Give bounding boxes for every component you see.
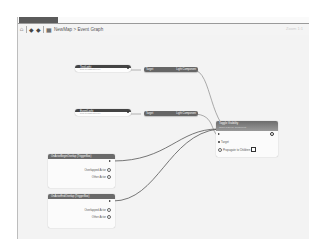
- forward-arrow-icon[interactable]: ◆: [35, 25, 42, 33]
- output-pin[interactable]: [127, 111, 129, 113]
- home-icon[interactable]: ⌂: [18, 25, 25, 33]
- exec-out-pin[interactable]: [270, 132, 274, 136]
- event-title: OnActorBeginOverlap (TriggerBox): [48, 154, 115, 159]
- other-actor-pin[interactable]: [107, 175, 111, 179]
- pin-label: Other Actor: [92, 175, 106, 179]
- overlapped-actor-pin[interactable]: [107, 168, 111, 172]
- variable-subtitle: from Persistent Level: [75, 112, 131, 114]
- zoom-label: Zoom 1:1: [286, 26, 303, 31]
- blueprint-editor: NewMap ⌂ ◆ ◆ ▦ NewMap > Event Graph Zoom…: [17, 17, 309, 239]
- pin-label: Propagate to Children: [223, 148, 250, 152]
- variable-node-eventlight[interactable]: EventLight from Persistent Level: [75, 109, 131, 116]
- get-light-component-node[interactable]: Target Light Component: [144, 111, 198, 116]
- exec-out-pin[interactable]: [109, 160, 111, 162]
- event-title: OnActorEndOverlap (TriggerBox): [48, 194, 115, 199]
- pin-label: Overlapped Actor: [84, 208, 106, 212]
- breadcrumb: NewMap > Event Graph: [54, 27, 103, 32]
- output-pin[interactable]: Light Component: [176, 112, 196, 115]
- variable-subtitle: from Persistent Level: [75, 68, 131, 70]
- event-graph-canvas[interactable]: TestLight from Persistent Level Target L…: [18, 35, 309, 239]
- graph-icon: ▦: [45, 25, 52, 33]
- propagate-checkbox[interactable]: [251, 147, 256, 152]
- other-actor-pin[interactable]: [107, 215, 111, 219]
- pin-label: Overlapped Actor: [84, 168, 106, 172]
- output-pin[interactable]: Light Component: [176, 68, 196, 71]
- event-node-end-overlap[interactable]: OnActorEndOverlap (TriggerBox) Overlappe…: [48, 194, 115, 228]
- graph-toolbar: ⌂ ◆ ◆ ▦ NewMap > Event Graph Zoom 1:1: [18, 24, 309, 34]
- toggle-visibility-node[interactable]: Toggle Visibility Target is Scene Compon…: [216, 121, 278, 157]
- exec-in-pin[interactable]: [218, 133, 220, 135]
- breadcrumb-map[interactable]: NewMap: [54, 27, 72, 32]
- tab-strip: NewMap: [18, 17, 309, 24]
- breadcrumb-graph[interactable]: Event Graph: [77, 27, 103, 32]
- get-light-component-node[interactable]: Target Light Component: [144, 67, 198, 72]
- back-arrow-icon[interactable]: ◆: [28, 25, 35, 33]
- exec-out-pin[interactable]: [109, 200, 111, 202]
- event-node-begin-overlap[interactable]: OnActorBeginOverlap (TriggerBox) Overlap…: [48, 154, 115, 188]
- breadcrumb-separator: >: [73, 27, 76, 32]
- pin-label: Other Actor: [92, 215, 106, 219]
- overlapped-actor-pin[interactable]: [107, 208, 111, 212]
- pin-label: Target: [221, 140, 229, 144]
- variable-node-testlight[interactable]: TestLight from Persistent Level: [75, 65, 131, 72]
- output-pin[interactable]: [127, 67, 129, 69]
- separator: [26, 26, 27, 33]
- target-pin[interactable]: [218, 141, 220, 143]
- separator: [43, 26, 44, 33]
- function-header: Toggle Visibility Target is Scene Compon…: [216, 121, 278, 131]
- function-subtitle: Target is Scene Component: [219, 126, 275, 130]
- tab-newmap[interactable]: NewMap: [19, 17, 58, 23]
- propagate-pin[interactable]: [218, 148, 222, 152]
- target-pin[interactable]: Target: [146, 68, 153, 71]
- target-pin[interactable]: Target: [146, 112, 153, 115]
